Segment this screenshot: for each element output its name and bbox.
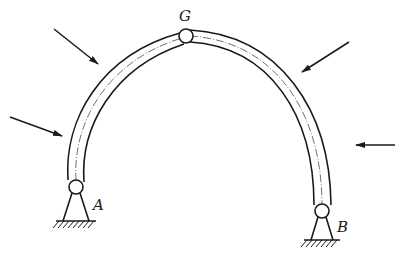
support-b [301, 204, 340, 247]
support-a [53, 180, 96, 228]
arch-diagram: G A B [0, 0, 399, 260]
left-arch-segment [68, 33, 184, 182]
left-lower-force-arrow-icon [10, 117, 62, 136]
label-b: B [336, 218, 348, 236]
label-g: G [179, 7, 191, 25]
right-upper-force-arrow-icon [302, 42, 349, 72]
label-a: A [91, 196, 104, 214]
hinge-g [179, 29, 193, 43]
right-arch-segment [190, 30, 331, 205]
left-upper-force-arrow-icon [54, 29, 98, 64]
